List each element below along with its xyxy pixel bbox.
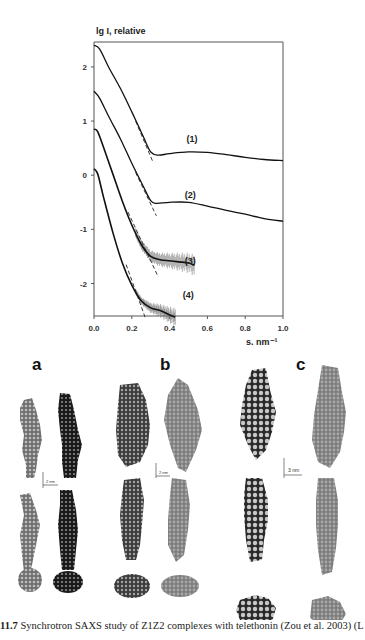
svg-text:0.0: 0.0 [88,324,100,333]
svg-text:(1): (1) [187,134,198,144]
svg-text:1: 1 [83,117,88,126]
scale-label-c: 3 nm [288,467,299,473]
scale-label-a: 2 nm [46,479,56,484]
data-curves [94,45,283,325]
y-axis-label: lg I, relative [96,26,146,36]
bead-models: 2 nm 2 nm 3 nm [0,350,365,620]
panel-a-models: 2 nm [18,393,83,593]
curve-3 [94,129,194,265]
saxs-chart: 0.00.20.40.60.81.0210-1-2 lg I, relative… [0,0,365,345]
svg-text:0: 0 [83,171,88,180]
panel-b-models: 2 nm [114,378,202,598]
svg-text:(4): (4) [183,290,194,300]
curve-labels: (1)(2)(3)(4) [183,134,198,300]
caption-number: 11.7 [0,620,18,631]
x-axis-label: s, nm⁻¹ [246,337,278,345]
plot-frame [94,42,283,316]
figure-caption: 11.7 Synchrotron SAXS study of Z1Z2 comp… [0,620,365,631]
svg-text:-2: -2 [80,280,88,289]
svg-text:0.8: 0.8 [240,324,252,333]
caption-text: Synchrotron SAXS study of Z1Z2 complexes… [20,620,363,631]
scale-label-b: 2 nm [159,470,169,475]
panel-c-models: 3 nm [236,365,346,620]
svg-text:2: 2 [83,63,88,72]
svg-text:0.2: 0.2 [126,324,138,333]
fit-lines [126,121,158,317]
curve-4 [94,169,175,317]
svg-text:-1: -1 [80,225,88,234]
svg-text:(2): (2) [185,190,196,200]
svg-text:1.0: 1.0 [277,324,289,333]
svg-text:(3): (3) [185,256,196,266]
svg-text:0.6: 0.6 [202,324,214,333]
